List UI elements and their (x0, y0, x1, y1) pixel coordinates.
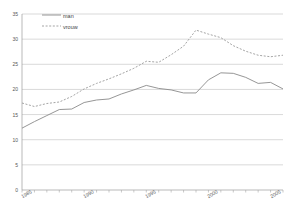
legend-label-man: man (63, 13, 74, 19)
y-tick-label: 10 (2, 137, 18, 143)
y-tick-label: 25 (2, 61, 18, 67)
y-tick-label: 20 (2, 86, 18, 92)
gridlines (22, 14, 283, 190)
chart-plot-area (0, 0, 291, 215)
legend-label-vrouw: vrouw (63, 24, 78, 30)
y-tick-label: 35 (2, 11, 18, 17)
y-tick-label: 15 (2, 112, 18, 118)
legend-swatches (42, 15, 61, 26)
y-tick-label: 5 (2, 162, 18, 168)
data-series-group (22, 30, 283, 128)
line-chart: 05101520253035 19851990199520002005 man … (0, 0, 291, 215)
y-tick-label: 30 (2, 36, 18, 42)
y-tick-label: 0 (2, 187, 18, 193)
series-line-vrouw (22, 30, 283, 106)
series-line-man (22, 73, 283, 128)
